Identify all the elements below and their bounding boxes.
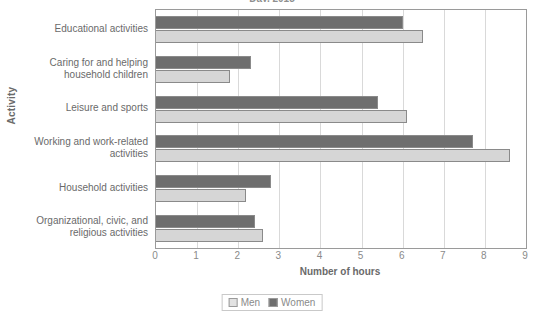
x-axis-title: Number of hours: [155, 266, 525, 277]
bar-women[interactable]: [156, 56, 251, 69]
category-label: Working and work-related activities: [6, 128, 152, 168]
x-tick-label: 8: [474, 250, 494, 261]
legend-label: Women: [281, 297, 315, 308]
bar-women[interactable]: [156, 96, 378, 109]
bar-men[interactable]: [156, 70, 230, 83]
x-tick-label: 1: [186, 250, 206, 261]
bar-group: [156, 169, 526, 209]
x-tick-label: 7: [433, 250, 453, 261]
x-tick-label: 6: [392, 250, 412, 261]
bar-men[interactable]: [156, 30, 423, 43]
category-label: Leisure and sports: [6, 88, 152, 128]
bar-women[interactable]: [156, 215, 255, 228]
bar-group: [156, 10, 526, 50]
bar-women[interactable]: [156, 16, 403, 29]
men-swatch-icon: [229, 298, 238, 307]
category-labels: Educational activities Caring for and he…: [6, 9, 152, 247]
bar-men[interactable]: [156, 229, 263, 242]
bar-women[interactable]: [156, 175, 271, 188]
bar-group: [156, 208, 526, 248]
x-tick-label: 2: [227, 250, 247, 261]
bar-chart: Day, 2015 Activity Educational activitie…: [0, 0, 544, 318]
x-tick-label: 4: [309, 250, 329, 261]
chart-title: Day, 2015: [0, 0, 544, 2]
bar-rows: [156, 10, 526, 248]
bar-men[interactable]: [156, 189, 246, 202]
x-tick-label: 3: [268, 250, 288, 261]
bar-men[interactable]: [156, 149, 510, 162]
legend-item-men[interactable]: Men: [229, 297, 260, 308]
legend: Men Women: [222, 294, 323, 311]
category-label: Caring for and helping household childre…: [6, 49, 152, 89]
category-label: Organizational, civic, and religious act…: [6, 207, 152, 247]
bar-group: [156, 50, 526, 90]
legend-item-women[interactable]: Women: [269, 297, 315, 308]
legend-label: Men: [241, 297, 260, 308]
bar-group: [156, 129, 526, 169]
x-tick-label: 5: [351, 250, 371, 261]
x-tick-label: 0: [145, 250, 165, 261]
plot-area: [155, 9, 527, 249]
women-swatch-icon: [269, 298, 278, 307]
x-tick-label: 9: [515, 250, 535, 261]
x-axis-ticks: 0123456789: [155, 250, 525, 264]
bar-group: [156, 89, 526, 129]
bar-women[interactable]: [156, 135, 473, 148]
category-label: Household activities: [6, 168, 152, 208]
category-label: Educational activities: [6, 9, 152, 49]
bar-men[interactable]: [156, 110, 407, 123]
